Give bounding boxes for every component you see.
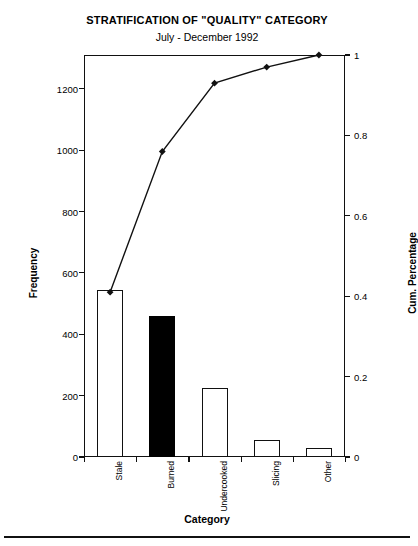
y-tick-label: 400 [28, 329, 78, 340]
x-tick-mark [293, 457, 294, 462]
x-tick-mark [241, 457, 242, 462]
y-tick-label: 0 [28, 452, 78, 463]
footer-divider [4, 536, 410, 538]
y-tick-mark [79, 150, 84, 151]
y-tick-label: 800 [28, 206, 78, 217]
y-tick-mark [79, 88, 84, 89]
y2-axis-title: Cum. Percentage [407, 232, 418, 314]
y2-tick-label: 0 [354, 452, 359, 463]
chart-title: STRATIFICATION OF "QUALITY" CATEGORY [0, 14, 414, 26]
y2-tick-label: 0.2 [354, 371, 367, 382]
y-tick-mark [79, 272, 84, 273]
x-category-label: Undercooked [219, 461, 229, 512]
x-tick-mark [188, 457, 189, 462]
y2-tick-mark [345, 376, 350, 377]
y2-tick-label: 1 [354, 50, 359, 61]
y-tick-mark [79, 211, 84, 212]
bar [97, 290, 123, 457]
bar [254, 440, 280, 457]
y2-tick-mark [345, 296, 350, 297]
y-tick-label: 600 [28, 267, 78, 278]
x-category-label: Stale [114, 461, 124, 480]
y-tick-label: 1000 [28, 145, 78, 156]
y2-tick-mark [345, 215, 350, 216]
y2-tick-label: 0.4 [354, 291, 367, 302]
x-tick-mark [345, 457, 346, 462]
bar [149, 316, 175, 457]
y-tick-label: 200 [28, 390, 78, 401]
bar [202, 388, 228, 457]
y-tick-mark [79, 395, 84, 396]
x-axis-title: Category [0, 513, 414, 525]
x-tick-mark [136, 457, 137, 462]
bar [306, 448, 332, 457]
x-category-label: Slicing [271, 461, 281, 486]
y2-tick-label: 0.6 [354, 210, 367, 221]
x-tick-mark [84, 457, 85, 462]
y-tick-label: 1200 [28, 83, 78, 94]
x-category-label: Other [323, 461, 333, 482]
y2-tick-label: 0.8 [354, 130, 367, 141]
x-category-label: Burned [166, 461, 176, 488]
y-tick-mark [79, 334, 84, 335]
y2-tick-mark [345, 135, 350, 136]
y2-tick-mark [345, 54, 350, 55]
chart-subtitle: July - December 1992 [0, 31, 414, 43]
